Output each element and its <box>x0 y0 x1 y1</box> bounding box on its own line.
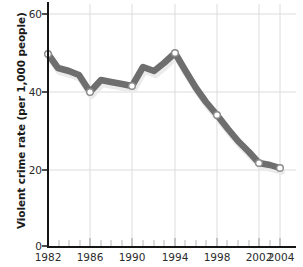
data-point-1998 <box>214 112 221 119</box>
x-axis-minor-ticks <box>59 238 280 246</box>
x-tick-label-1982: 1982 <box>26 251 70 263</box>
violent-crime-rate-line-chart: 60 40 20 0 1982 1986 1990 1994 1998 2002… <box>0 0 303 267</box>
x-tick-label-2004: 2004 <box>259 251 303 263</box>
data-point-1990 <box>129 83 136 90</box>
y-axis-title: Violent crime rate (per 1,000 people) <box>15 19 29 229</box>
data-point-1994 <box>172 50 179 57</box>
x-tick-label-1998: 1998 <box>195 251 239 263</box>
x-axis-line <box>47 246 296 248</box>
plot-area <box>0 0 303 267</box>
data-point-2004 <box>277 165 284 172</box>
x-tick-label-1990: 1990 <box>110 251 154 263</box>
x-tick-label-1994: 1994 <box>153 251 197 263</box>
y-tick-label-0: 0 <box>20 241 42 251</box>
data-series-shadow <box>50 57 282 174</box>
y-axis-line <box>47 2 49 247</box>
data-point-2002 <box>256 160 263 167</box>
data-point-1986 <box>87 89 94 96</box>
x-tick-label-1986: 1986 <box>68 251 112 263</box>
